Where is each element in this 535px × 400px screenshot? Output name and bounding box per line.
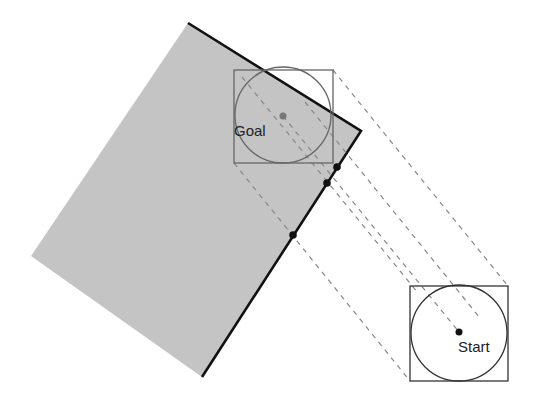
- contact-point: [289, 231, 297, 239]
- start-center-dot: [456, 329, 463, 336]
- sweep-line: [333, 70, 508, 286]
- goal-label: Goal: [234, 122, 266, 139]
- contact-point: [333, 163, 341, 171]
- sweep-line: [283, 116, 459, 332]
- start-label: Start: [458, 338, 491, 355]
- goal-center-dot: [280, 113, 287, 120]
- contact-point: [323, 179, 331, 187]
- motion-planning-diagram: Goal Start: [0, 0, 535, 400]
